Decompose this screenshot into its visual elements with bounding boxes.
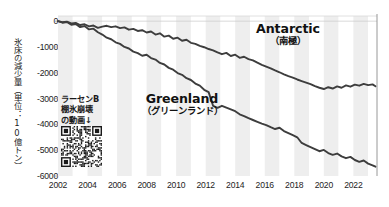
larsen-b-annotation: ラーセンB 棚氷崩壊 の動画↓	[61, 94, 113, 171]
series-label-greenland-en: Greenland	[142, 92, 223, 106]
qr-code-icon[interactable]	[61, 126, 102, 167]
series-label-greenland: Greenland （グリーンランド）	[142, 92, 223, 117]
series-label-antarctic-en: Antarctic	[256, 22, 320, 36]
ice-sheet-loss-chart: 氷床の減少量（単位：10億トン） 0-1000-2000-3000-4000-5…	[0, 0, 389, 207]
x-tick-2014: 2014	[226, 180, 244, 190]
larsen-b-caption-line-2: 棚氷崩壊	[61, 104, 113, 114]
larsen-b-caption: ラーセンB 棚氷崩壊 の動画↓	[61, 94, 113, 125]
series-label-greenland-jp: （グリーンランド）	[142, 106, 223, 117]
x-tick-2002: 2002	[49, 180, 67, 190]
x-tick-2016: 2016	[256, 180, 274, 190]
series-label-antarctic: Antarctic （南極）	[256, 22, 320, 47]
x-tick-2010: 2010	[167, 180, 185, 190]
series-label-antarctic-jp: （南極）	[256, 36, 320, 47]
larsen-b-caption-line-3: の動画↓	[61, 115, 113, 125]
x-tick-2022: 2022	[344, 180, 362, 190]
x-tick-2004: 2004	[78, 180, 96, 190]
x-tick-2020: 2020	[315, 180, 333, 190]
x-tick-2018: 2018	[285, 180, 303, 190]
x-tick-2006: 2006	[108, 180, 126, 190]
larsen-b-caption-line-1: ラーセンB	[61, 94, 113, 104]
x-tick-2012: 2012	[197, 180, 215, 190]
x-tick-2008: 2008	[137, 180, 155, 190]
